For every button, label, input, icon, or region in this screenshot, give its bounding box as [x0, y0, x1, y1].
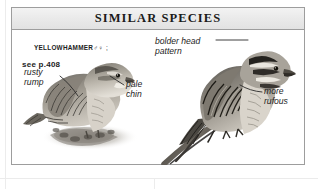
species-name-yellowhammer: YELLOWHAMMER [34, 44, 93, 51]
sex-symbols-yellowhammer: ♂♀ ; [93, 44, 108, 51]
annotation-rusty-rump: rusty rump [24, 67, 44, 87]
annotation-bolder-head-pattern: bolder head pattern [155, 36, 200, 56]
page-title: SIMILAR SPECIES [95, 11, 222, 26]
panel-body: YELLOWHAMMER♂♀ ; see p.408 rusty rump pa… [12, 31, 304, 165]
similar-species-panel: SIMILAR SPECIES [11, 7, 305, 165]
species-label-reed-bunting: REED BUNTING ♀ similar to ♂♀ ; see p.405 [233, 130, 292, 165]
panel-header: SIMILAR SPECIES [12, 8, 304, 30]
leader-pale-chin [110, 76, 124, 85]
leader-more-rufous [240, 85, 262, 92]
page-rule-bottom [0, 178, 318, 179]
page-rule-left [5, 0, 6, 189]
page-rule-bottom-divider [154, 178, 155, 189]
annotation-pale-chin: pale chin [126, 79, 142, 99]
annotation-more-rufous: more rufous [264, 86, 288, 106]
